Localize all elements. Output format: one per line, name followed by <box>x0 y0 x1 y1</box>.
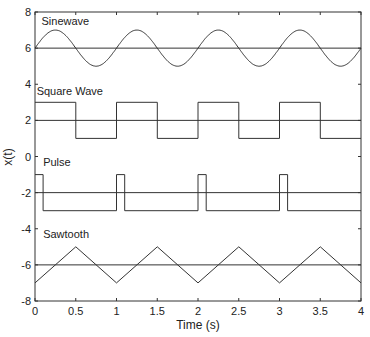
x-axis-label: Time (s) <box>176 318 220 332</box>
x-tick-label: 1.5 <box>150 305 165 317</box>
y-tick-label: -4 <box>21 223 31 235</box>
x-tick-label: 0 <box>32 305 38 317</box>
x-tick-label: 3.5 <box>313 305 328 317</box>
x-tick-label: 1 <box>113 305 119 317</box>
axis-ticks: 00.511.522.533.54-8-6-4-202468 <box>21 6 364 317</box>
y-tick-label: 4 <box>25 78 31 90</box>
plot-frame <box>35 12 361 301</box>
y-tick-label: 6 <box>25 42 31 54</box>
x-tick-label: 0.5 <box>68 305 83 317</box>
x-tick-label: 4 <box>358 305 364 317</box>
x-tick-label: 2.5 <box>231 305 246 317</box>
annotation-label: Pulse <box>43 156 71 168</box>
annotation-label: Sinewave <box>42 15 90 27</box>
y-tick-label: -2 <box>21 187 31 199</box>
y-tick-label: 0 <box>25 151 31 163</box>
y-tick-label: -6 <box>21 259 31 271</box>
y-axis-label: x(t) <box>1 148 15 165</box>
series-annotations: SinewaveSquare WavePulseSawtooth <box>37 15 103 240</box>
y-tick-label: 8 <box>25 6 31 18</box>
plot-lines <box>35 30 361 283</box>
x-tick-label: 3 <box>276 305 282 317</box>
annotation-label: Sawtooth <box>43 228 89 240</box>
annotation-label: Square Wave <box>37 85 103 97</box>
y-tick-label: -8 <box>21 295 31 307</box>
y-tick-label: 2 <box>25 114 31 126</box>
x-tick-label: 2 <box>195 305 201 317</box>
chart: 00.511.522.533.54-8-6-4-202468 SinewaveS… <box>0 0 370 337</box>
